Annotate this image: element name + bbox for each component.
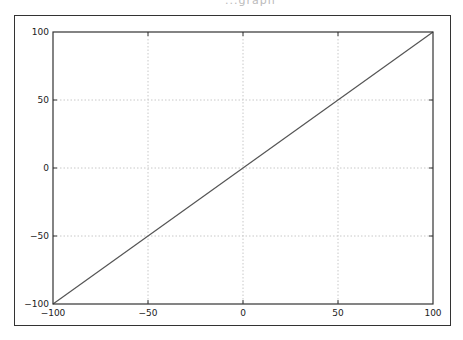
x-tick-label: 100 — [424, 308, 441, 318]
x-tick-label: −50 — [139, 308, 158, 318]
y-tick-label: −50 — [30, 231, 49, 241]
line-chart: −100 −50 0 50 100 100 50 0 −50 −100 — [0, 0, 463, 340]
y-tick-label: 0 — [43, 163, 49, 173]
y-tick-label: 50 — [38, 95, 50, 105]
x-tick-label: 0 — [240, 308, 246, 318]
y-tick-label: 100 — [32, 27, 49, 37]
x-tick-label: −100 — [41, 308, 66, 318]
y-tick-label: −100 — [24, 299, 49, 309]
x-tick-label: 50 — [332, 308, 344, 318]
